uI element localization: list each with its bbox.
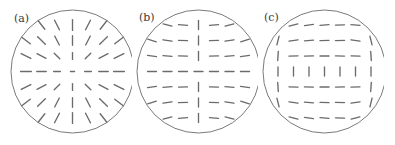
director-segment — [289, 24, 298, 26]
director-segment — [38, 99, 46, 107]
director-segment — [241, 86, 250, 87]
director-segment — [163, 117, 172, 119]
director-segment — [278, 83, 279, 92]
director-segment — [85, 84, 91, 90]
director-segment — [55, 36, 60, 45]
panel-a: (a) — [0, 0, 132, 145]
director-segment — [38, 21, 45, 30]
director-segment — [371, 52, 372, 61]
director-segment — [54, 53, 60, 59]
panel-a-label: (a) — [14, 13, 29, 24]
director-segment — [99, 54, 108, 59]
panel-boundary-circle — [263, 10, 384, 133]
director-segment — [289, 40, 298, 41]
director-segment — [351, 40, 360, 41]
panel-b-label: (b) — [139, 12, 155, 23]
director-segment — [55, 20, 60, 30]
director-segment — [100, 99, 108, 107]
director-segment — [225, 40, 234, 41]
figure-vector-field-panels: (a) (b) (c) — [0, 0, 395, 145]
director-segment — [370, 36, 372, 45]
director-segment — [86, 20, 91, 30]
director-segment — [305, 102, 314, 103]
director-segment — [100, 21, 107, 30]
director-segment — [225, 87, 234, 88]
director-segment-grid — [148, 21, 250, 123]
director-segment — [54, 84, 60, 90]
director-segment — [179, 25, 188, 26]
director-segment — [86, 36, 91, 45]
director-segment — [210, 25, 219, 26]
director-segment — [241, 101, 250, 104]
director-segment — [148, 39, 157, 42]
director-segment-grid — [21, 20, 125, 124]
director-segment — [241, 55, 250, 56]
director-segment — [320, 25, 329, 26]
director-segment — [37, 85, 46, 90]
director-segment-grid — [277, 24, 372, 119]
director-segment — [148, 55, 157, 56]
director-segment — [148, 101, 157, 104]
director-segment — [163, 102, 172, 103]
director-segment — [85, 53, 91, 59]
director-segment — [320, 118, 329, 119]
director-segment — [86, 98, 91, 107]
director-segment — [289, 117, 298, 119]
director-segment — [277, 36, 279, 45]
director-segment — [163, 24, 172, 26]
director-segment — [351, 102, 360, 103]
director-segment — [278, 52, 279, 61]
director-segment — [351, 117, 360, 119]
panel-b: (b) — [126, 0, 258, 145]
director-segment — [38, 114, 45, 123]
director-segment — [99, 85, 108, 90]
panel-c-label: (c) — [264, 12, 279, 23]
director-segment — [225, 117, 234, 119]
director-segment — [277, 98, 279, 107]
director-segment — [163, 40, 172, 41]
director-segment — [371, 83, 372, 92]
director-segment — [351, 25, 360, 26]
director-segment — [163, 87, 172, 88]
director-segment — [289, 102, 298, 103]
director-segment — [100, 37, 108, 45]
director-segment — [21, 85, 31, 90]
director-segment — [21, 54, 31, 59]
director-segment — [163, 56, 172, 57]
director-segment — [241, 39, 250, 42]
director-segment — [37, 54, 46, 59]
director-segment — [114, 85, 124, 90]
director-segment — [38, 37, 46, 45]
director-segment — [225, 56, 234, 57]
director-segment — [22, 37, 31, 44]
director-segment — [210, 118, 219, 119]
director-segment — [115, 99, 124, 106]
director-segment — [55, 98, 60, 107]
director-segment — [55, 113, 60, 123]
director-segment — [225, 24, 234, 26]
director-segment — [86, 113, 91, 123]
director-segment — [305, 117, 314, 118]
director-segment — [305, 40, 314, 41]
director-segment — [100, 114, 107, 123]
panel-c: (c) — [252, 0, 384, 145]
director-segment — [179, 118, 188, 119]
director-segment — [305, 24, 314, 25]
director-segment — [115, 37, 124, 44]
director-segment — [370, 98, 372, 107]
director-segment — [22, 99, 31, 106]
director-segment — [148, 86, 157, 87]
director-segment — [225, 102, 234, 103]
director-segment — [114, 54, 124, 59]
